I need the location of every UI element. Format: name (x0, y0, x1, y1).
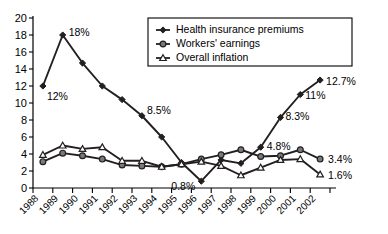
data-point-label: 4.8% (267, 140, 291, 152)
line-chart: 0246810121416182019881989199019911992199… (0, 0, 388, 234)
data-point-label: 3.4% (328, 153, 352, 165)
data-point (40, 152, 47, 158)
legend-entry-label: Overall inflation (176, 51, 249, 63)
data-point-label: 0.8% (171, 180, 195, 192)
data-point (317, 156, 323, 162)
data-point (40, 159, 46, 165)
data-point (79, 146, 86, 152)
data-point-label: 12.7% (326, 75, 356, 87)
y-tick-label: 10 (15, 97, 27, 109)
legend-entry-label: Health insurance premiums (176, 23, 304, 35)
data-point-label: 8.5% (147, 104, 171, 116)
data-point-label: 1.6% (328, 169, 352, 181)
x-tick-label: 2000 (255, 192, 279, 216)
data-point-label: 18% (69, 26, 90, 38)
x-tick-label: 1999 (235, 192, 259, 216)
data-point (40, 83, 46, 89)
data-point (59, 142, 66, 148)
y-tick-label: 4 (21, 148, 27, 160)
data-point (297, 156, 304, 162)
x-tick-label: 1988 (17, 192, 41, 216)
data-point-label: 11% (305, 89, 325, 101)
legend-entry-label: Workers' earnings (176, 37, 260, 49)
x-tick-label: 2002 (294, 192, 318, 216)
x-tick-label: 1996 (175, 192, 199, 216)
data-point (257, 164, 264, 170)
x-tick-label: 1995 (156, 192, 180, 216)
y-tick-label: 16 (15, 46, 27, 58)
y-tick-label: 2 (21, 165, 27, 177)
x-tick-label: 1993 (116, 192, 140, 216)
data-point (218, 152, 224, 158)
data-point (297, 147, 303, 153)
x-tick-label: 1997 (195, 192, 219, 216)
data-point (139, 158, 146, 164)
y-tick-label: 0 (21, 182, 27, 194)
y-tick-label: 6 (21, 131, 27, 143)
chart-canvas: 0246810121416182019881989199019911992199… (0, 0, 388, 234)
y-tick-label: 20 (15, 12, 27, 24)
data-point (238, 147, 244, 153)
legend-marker (160, 41, 166, 47)
x-tick-label: 1998 (215, 192, 239, 216)
x-tick-label: 1992 (96, 192, 120, 216)
data-point (238, 172, 245, 178)
y-tick-label: 14 (15, 63, 27, 75)
y-tick-label: 18 (15, 29, 27, 41)
data-point (80, 153, 86, 159)
x-tick-label: 1991 (76, 192, 100, 216)
data-point (60, 150, 66, 156)
data-point-label: 12% (47, 90, 68, 102)
x-tick-label: 1989 (37, 192, 61, 216)
x-tick-label: 1990 (57, 192, 81, 216)
data-point (99, 144, 106, 150)
data-point-label: 8.3% (286, 110, 310, 122)
data-point (258, 154, 264, 160)
y-tick-label: 12 (15, 80, 27, 92)
x-tick-label: 1994 (136, 192, 160, 216)
x-tick-label: 2001 (274, 192, 298, 216)
data-point (99, 156, 105, 162)
y-tick-label: 8 (21, 114, 27, 126)
